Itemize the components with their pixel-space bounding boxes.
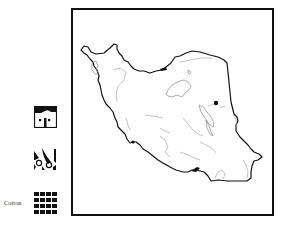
caspian-coast-marker — [160, 67, 167, 71]
tools-icon — [34, 148, 57, 170]
dwelling-icon — [34, 106, 57, 128]
legend-label-cotton: Cotton — [4, 200, 22, 206]
coast-marker — [131, 140, 134, 143]
city-marker — [214, 101, 218, 105]
country-border — [81, 44, 262, 181]
city-marker-line — [208, 104, 214, 106]
grid-icon — [34, 192, 57, 214]
rivers — [113, 58, 248, 179]
